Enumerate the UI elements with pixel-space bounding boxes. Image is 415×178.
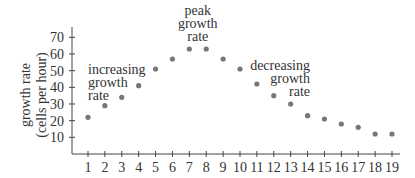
data-point	[153, 66, 158, 71]
x-tick-label: 3	[118, 160, 125, 175]
axes	[69, 27, 400, 157]
x-tick-label: 15	[317, 160, 331, 175]
y-tick-label: 60	[50, 47, 64, 62]
y-tick-labels: 10203040506070	[50, 30, 64, 145]
y-tick-label: 40	[50, 80, 64, 95]
data-point	[271, 93, 276, 98]
data-point	[322, 116, 327, 121]
y-axis-title: growth rate (cells per hour)	[18, 52, 50, 138]
annotation-line: rate	[289, 84, 310, 99]
x-tick-label: 6	[169, 160, 176, 175]
data-point	[356, 125, 361, 130]
x-tick-label: 16	[334, 160, 348, 175]
annotations: increasinggrowthratepeakgrowthratedecrea…	[88, 3, 310, 103]
x-tick-label: 5	[152, 160, 159, 175]
data-point	[85, 115, 90, 120]
annotation-increasing: increasinggrowthrate	[88, 62, 146, 103]
x-tick-label: 12	[267, 160, 281, 175]
y-axis-title-line2: (cells per hour)	[34, 52, 50, 138]
y-tick-label: 70	[50, 30, 64, 45]
x-tick-label: 17	[351, 160, 365, 175]
data-point	[119, 95, 124, 100]
x-tick-labels: 12345678910111213141516171819	[85, 160, 400, 175]
annotation-decreasing: decreasinggrowthrate	[250, 58, 310, 99]
data-point	[136, 83, 141, 88]
growth-rate-chart: growth rate (cells per hour) 10203040506…	[0, 0, 415, 178]
x-tick-label: 18	[368, 160, 382, 175]
data-point	[389, 131, 394, 136]
data-point	[204, 46, 209, 51]
data-point	[221, 56, 226, 61]
annotation-peak: peakgrowthrate	[178, 3, 218, 44]
annotation-line: rate	[88, 88, 109, 103]
x-tick-label: 10	[233, 160, 247, 175]
x-tick-label: 11	[250, 160, 263, 175]
x-tick-label: 14	[301, 160, 315, 175]
x-tick-label: 1	[85, 160, 92, 175]
x-tick-label: 13	[284, 160, 298, 175]
data-point	[187, 46, 192, 51]
data-point	[254, 81, 259, 86]
y-axis-title-line1: growth rate	[18, 63, 33, 127]
y-tick-label: 30	[50, 97, 64, 112]
y-tick-label: 20	[50, 114, 64, 129]
data-point	[373, 131, 378, 136]
x-tick-label: 19	[385, 160, 399, 175]
data-point	[339, 121, 344, 126]
x-tick-label: 8	[203, 160, 210, 175]
x-tick-label: 4	[135, 160, 142, 175]
data-point	[237, 66, 242, 71]
y-tick-label: 10	[50, 130, 64, 145]
annotation-line: rate	[187, 29, 208, 44]
data-point	[288, 101, 293, 106]
data-points	[85, 46, 394, 136]
x-tick-label: 2	[101, 160, 108, 175]
data-point	[170, 56, 175, 61]
y-tick-label: 50	[50, 64, 64, 79]
data-point	[305, 113, 310, 118]
x-tick-label: 7	[186, 160, 193, 175]
data-point	[102, 103, 107, 108]
x-tick-label: 9	[220, 160, 227, 175]
